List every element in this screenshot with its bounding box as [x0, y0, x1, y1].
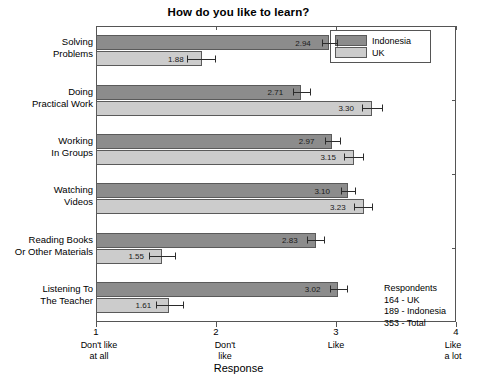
bar-value-label: 3.30 — [304, 104, 354, 113]
x-tick-label: 4 — [436, 326, 476, 337]
y-axis-tick-right — [452, 100, 456, 101]
bar-value-label: 3.23 — [296, 202, 346, 211]
category-label-0: SolvingProblems — [1, 36, 96, 60]
legend-item-indonesia: Indonesia — [335, 35, 426, 46]
x-caption-line2: a lot — [408, 351, 477, 362]
x-tick-mark-top — [456, 26, 457, 30]
category-label-line1: Working — [1, 135, 93, 147]
y-axis-tick-right — [452, 248, 456, 249]
legend-item-uk: UK — [335, 47, 426, 58]
error-bar — [354, 199, 373, 214]
respondents-heading: Respondents — [384, 283, 446, 295]
bar-value-label: 3.10 — [280, 186, 330, 195]
category-label-line2: Problems — [1, 48, 93, 60]
category-label-line1: Reading Books — [1, 234, 93, 246]
x-caption-line1: Don't — [180, 340, 270, 351]
category-label-5: Listening ToThe Teacher — [1, 283, 96, 307]
x-caption-line1: Don't like — [54, 340, 144, 351]
bar-value-label: 1.61 — [101, 301, 151, 310]
category-label-line1: Doing — [1, 86, 93, 98]
x-tick-caption: Don'tlike — [180, 340, 270, 362]
respondents-annotation: Respondents 164 - UK 189 - Indonesia 353… — [384, 283, 446, 329]
error-bar — [149, 249, 177, 264]
x-tick-label: 2 — [196, 326, 236, 337]
x-tick-mark-top — [96, 26, 97, 30]
x-tick-caption: Don't likeat all — [54, 340, 144, 362]
x-caption-line1: Like — [291, 340, 381, 351]
x-tick-mark-top — [336, 26, 337, 30]
respondents-line: 189 - Indonesia — [384, 306, 446, 318]
x-caption-line2: at all — [54, 351, 144, 362]
category-label-1: DoingPractical Work — [1, 86, 96, 110]
legend-label: UK — [372, 48, 385, 58]
x-axis-title: Response — [0, 362, 477, 374]
error-bar — [322, 35, 339, 50]
bar-value-label: 2.71 — [233, 88, 283, 97]
x-caption-line2: like — [180, 351, 270, 362]
category-label-3: WatchingVideos — [1, 184, 96, 208]
error-bar — [330, 282, 348, 297]
x-tick-label: 1 — [76, 326, 116, 337]
error-bar — [325, 134, 341, 149]
category-label-line2: Or Other Materials — [1, 246, 93, 258]
error-bar — [293, 85, 311, 100]
bar-value-label: 1.88 — [134, 54, 184, 63]
respondents-line: 164 - UK — [384, 295, 446, 307]
plot-area — [96, 26, 456, 322]
category-label-line2: Practical Work — [1, 98, 93, 110]
error-bar — [341, 183, 357, 198]
error-bar — [156, 298, 184, 313]
category-label-line2: The Teacher — [1, 295, 93, 307]
legend-swatch-icon — [335, 47, 367, 58]
y-axis-tick-right — [452, 174, 456, 175]
x-tick-label: 3 — [316, 326, 356, 337]
bar-value-label: 1.55 — [94, 252, 144, 261]
chart-container: How do you like to learn? Response Indon… — [0, 0, 477, 387]
category-label-4: Reading BooksOr Other Materials — [1, 234, 96, 258]
category-label-line2: Videos — [1, 196, 93, 208]
category-label-line2: In Groups — [1, 147, 93, 159]
x-tick-mark-top — [216, 26, 217, 30]
legend-label: Indonesia — [372, 36, 411, 46]
bar-value-label: 3.15 — [286, 153, 336, 162]
bar-value-label: 2.97 — [264, 137, 314, 146]
legend: Indonesia UK — [330, 30, 431, 63]
x-caption-line1: Like — [408, 340, 477, 351]
bar-value-label: 2.83 — [248, 236, 298, 245]
category-label-line1: Solving — [1, 36, 93, 48]
bar-value-label: 3.02 — [270, 285, 320, 294]
x-tick-caption: Likea lot — [408, 340, 477, 362]
category-label-line1: Watching — [1, 184, 93, 196]
category-label-line1: Listening To — [1, 283, 93, 295]
error-bar — [344, 150, 363, 165]
chart-title: How do you like to learn? — [0, 6, 477, 18]
error-bar — [187, 51, 216, 66]
category-label-2: WorkingIn Groups — [1, 135, 96, 159]
legend-swatch-icon — [335, 35, 367, 46]
bar-value-label: 2.94 — [261, 38, 311, 47]
x-tick-caption: Like — [291, 340, 381, 351]
error-bar — [307, 233, 325, 248]
error-bar — [362, 101, 382, 116]
